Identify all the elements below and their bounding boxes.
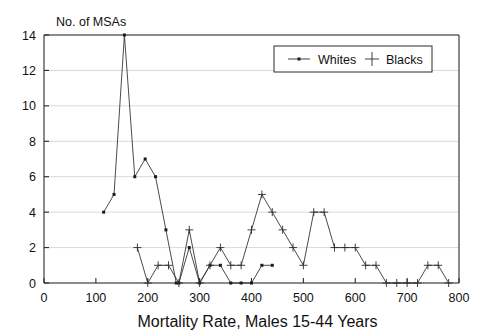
plus-marker <box>403 279 411 287</box>
plus-marker <box>393 279 401 287</box>
y-axis-label: No. of MSAs <box>56 15 126 29</box>
plus-marker <box>382 279 390 287</box>
plus-marker <box>185 226 193 234</box>
plus-marker <box>414 279 422 287</box>
chart-container: 024681012140100200300400500600700800No. … <box>0 0 478 333</box>
square-marker <box>229 282 232 285</box>
plus-marker <box>216 244 224 252</box>
square-marker <box>123 34 126 37</box>
mortality-rate-histogram-chart: 024681012140100200300400500600700800No. … <box>0 0 478 333</box>
plus-marker <box>196 279 204 287</box>
x-axis-label: Mortality Rate, Males 15-44 Years <box>137 313 377 330</box>
y-tick-label: 4 <box>29 206 36 220</box>
x-tick-label: 200 <box>137 291 158 305</box>
y-tick-label: 10 <box>22 99 36 113</box>
square-marker <box>154 175 157 178</box>
plus-marker <box>248 226 256 234</box>
x-tick-label: 500 <box>293 291 314 305</box>
plus-marker <box>268 208 276 216</box>
x-tick-label: 0 <box>41 291 48 305</box>
square-marker <box>113 193 116 196</box>
square-marker <box>219 264 222 267</box>
y-tick-label: 2 <box>29 241 36 255</box>
y-tick-label: 12 <box>22 64 36 78</box>
x-tick-label: 800 <box>449 291 470 305</box>
plus-marker <box>424 261 432 269</box>
plus-marker <box>331 244 339 252</box>
plus-marker <box>310 208 318 216</box>
square-marker <box>260 264 263 267</box>
series-whites <box>102 34 274 285</box>
square-marker <box>250 282 253 285</box>
chart-legend: WhitesBlacks <box>274 46 432 72</box>
plus-marker <box>237 261 245 269</box>
square-marker <box>102 211 105 214</box>
plus-marker <box>362 261 370 269</box>
plus-marker <box>289 244 297 252</box>
plus-marker <box>144 279 152 287</box>
plus-marker <box>165 261 173 269</box>
y-tick-label: 8 <box>29 135 36 149</box>
plus-marker <box>279 226 287 234</box>
legend-marker-whites-square <box>298 58 301 61</box>
series-line-blacks <box>137 194 448 283</box>
x-tick-label: 600 <box>345 291 366 305</box>
plus-marker <box>227 261 235 269</box>
square-marker <box>144 158 147 161</box>
series-blacks <box>133 190 452 287</box>
y-tick-label: 6 <box>29 170 36 184</box>
plus-marker <box>434 261 442 269</box>
square-marker <box>164 228 167 231</box>
legend-label-blacks: Blacks <box>386 53 423 67</box>
plus-marker <box>351 244 359 252</box>
y-tick-label: 14 <box>22 29 36 43</box>
plus-marker <box>206 261 214 269</box>
plus-marker <box>445 279 453 287</box>
x-tick-label: 300 <box>189 291 210 305</box>
plus-marker <box>341 244 349 252</box>
plus-marker <box>133 244 141 252</box>
square-marker <box>240 282 243 285</box>
square-marker <box>133 175 136 178</box>
legend-label-whites: Whites <box>318 53 356 67</box>
y-tick-label: 0 <box>29 277 36 291</box>
plus-marker <box>258 190 266 198</box>
plus-marker <box>320 208 328 216</box>
square-marker <box>271 264 274 267</box>
square-marker <box>188 246 191 249</box>
x-tick-label: 100 <box>85 291 106 305</box>
plus-marker <box>299 261 307 269</box>
plus-marker <box>372 261 380 269</box>
x-tick-label: 700 <box>397 291 418 305</box>
x-tick-label: 400 <box>241 291 262 305</box>
plus-marker <box>154 261 162 269</box>
